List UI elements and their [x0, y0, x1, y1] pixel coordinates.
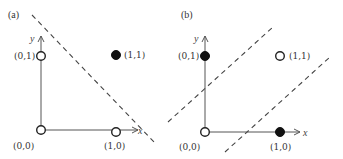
point-label: (0,0) [13, 141, 34, 151]
panel-b-label: (b) [181, 9, 193, 21]
point-label: (1,0) [270, 142, 291, 152]
x-axis-label: x [137, 125, 143, 136]
point-label: (0,0) [179, 142, 200, 152]
point-label: (1,0) [104, 141, 125, 151]
panel-b: (b) y x (0,1) (0,0) (1,0) (1,1) [168, 9, 330, 152]
point-1-1 [112, 51, 121, 60]
point-0-1 [201, 52, 210, 61]
decision-boundary-line-lower [225, 57, 330, 152]
decision-boundary-line [32, 15, 155, 143]
y-axis-label: y [29, 33, 35, 44]
point-1-0 [112, 128, 121, 137]
point-1-1 [276, 52, 285, 61]
decision-boundary-line-upper [168, 27, 273, 122]
point-0-0 [37, 126, 46, 135]
point-0-0 [201, 128, 210, 137]
point-label: (0,1) [178, 51, 199, 61]
panel-a: (a) y x (0,1) (0,0) (1,0) (1,1) [8, 9, 155, 151]
y-axis-label: y [193, 33, 199, 44]
point-label: (0,1) [14, 51, 35, 61]
point-1-0 [276, 128, 285, 137]
x-axis-label: x [302, 127, 308, 138]
point-label: (1,1) [124, 50, 145, 60]
point-0-1 [37, 52, 46, 61]
point-label: (1,1) [289, 51, 310, 61]
panel-a-label: (a) [8, 9, 19, 21]
diagram-canvas: (a) y x (0,1) (0,0) (1,0) (1,1) (b) y x … [0, 0, 343, 159]
